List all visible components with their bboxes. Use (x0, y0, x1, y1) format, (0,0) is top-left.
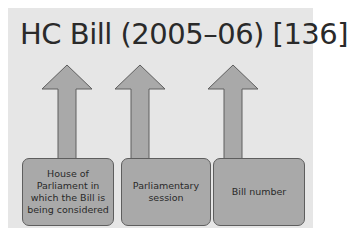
arrow-up-icon (208, 65, 258, 159)
bill-number-box: Bill number (213, 158, 305, 226)
arrow-up-icon (115, 65, 165, 159)
parliamentary-session-box: Parliamentary session (121, 158, 211, 226)
house-of-parliament-label: House of Parliament in which the Bill is… (25, 168, 111, 216)
parliamentary-session-label: Parliamentary session (124, 180, 208, 204)
arrow-up-icon (42, 65, 92, 159)
house-of-parliament-box: House of Parliament in which the Bill is… (22, 158, 114, 226)
bill-number-label: Bill number (232, 186, 287, 198)
